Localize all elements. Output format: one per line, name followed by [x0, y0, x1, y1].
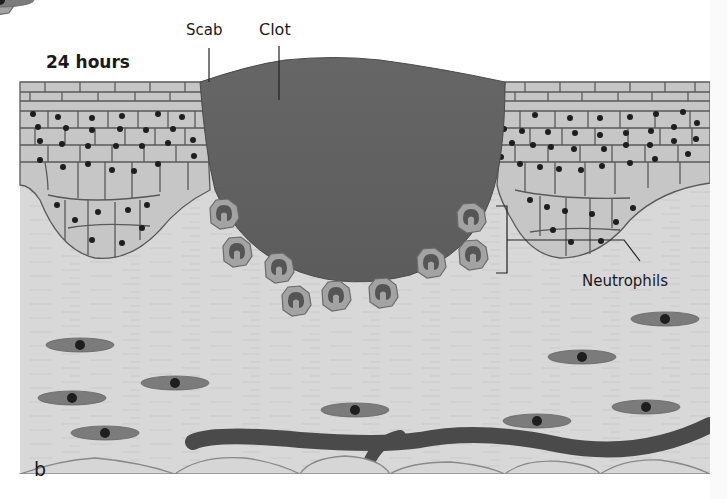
neutrophils-label: Neutrophils [582, 272, 668, 290]
clot-label: Clot [259, 20, 291, 39]
time-label: 24 hours [46, 52, 130, 72]
scab-label: Scab [186, 21, 222, 39]
wound-healing-diagram: 24 hours Scab Clot Neutrophils b [0, 0, 727, 499]
panel-letter: b [34, 458, 46, 480]
